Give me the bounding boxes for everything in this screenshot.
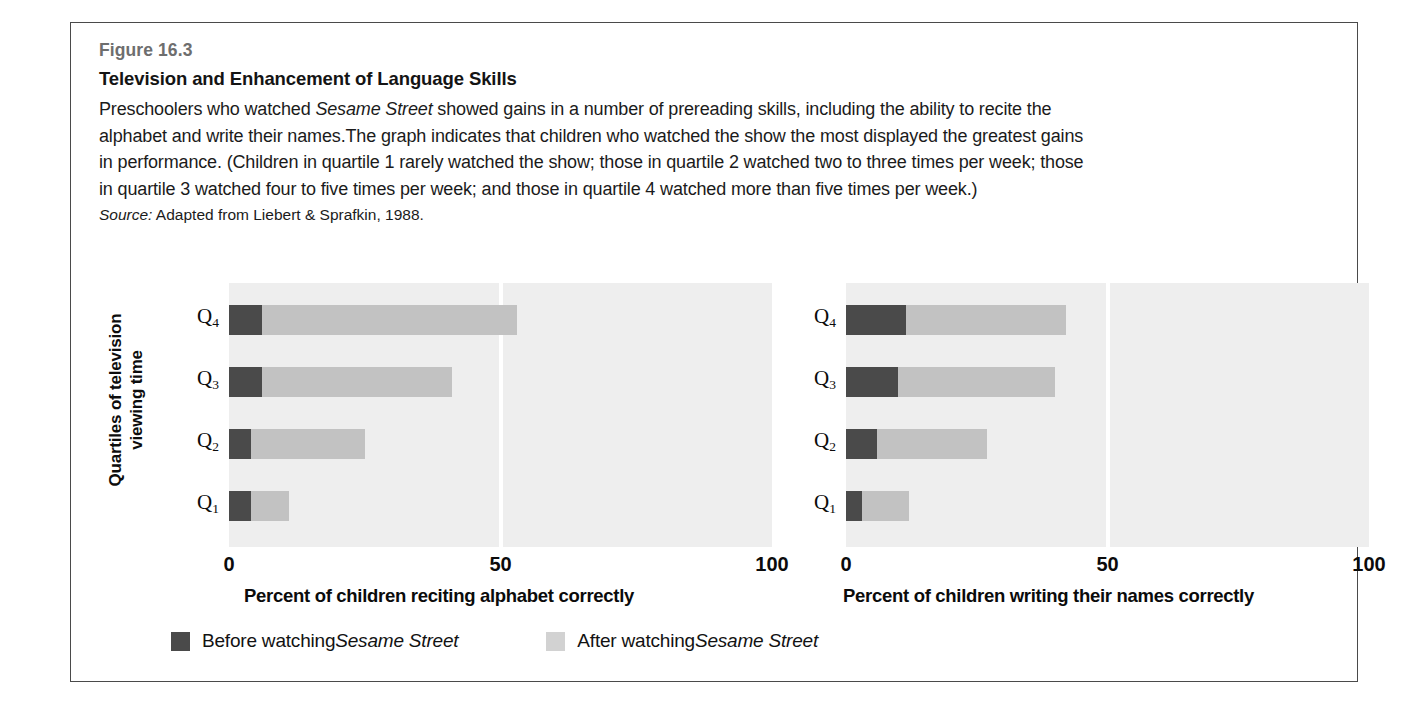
category-label-q4-right: Q4 [814, 304, 836, 329]
table-row[interactable]: Q2 [229, 429, 772, 459]
bar-segment-after[interactable] [262, 367, 452, 397]
table-row[interactable]: Q4 [846, 305, 1369, 335]
figure-title: Television and Enhancement of Language S… [99, 68, 1279, 90]
table-row[interactable]: Q1 [229, 491, 772, 521]
legend-label-after-italic: Sesame Street [695, 630, 818, 652]
x-tick-0-left: 0 [223, 553, 234, 576]
bar-segment-before[interactable] [229, 367, 262, 397]
x-axis-title-left: Percent of children reciting alphabet co… [159, 585, 719, 607]
category-label-q4-left: Q4 [197, 304, 219, 329]
category-label-q2-left: Q2 [197, 428, 219, 453]
bar-segment-after[interactable] [251, 491, 289, 521]
bar-segment-before[interactable] [846, 429, 877, 459]
figure-description-italic-show-title: Sesame Street [315, 99, 432, 119]
bar-segment-after[interactable] [906, 305, 1066, 335]
charts-area: Quartiles of television viewing time Q4 … [71, 271, 1359, 683]
bar-segment-after[interactable] [251, 429, 365, 459]
legend-label-before-plain: Before watching [202, 630, 335, 652]
bar-segment-before[interactable] [229, 429, 251, 459]
x-tick-100-right: 100 [1352, 553, 1385, 576]
bar-segment-after[interactable] [898, 367, 1055, 397]
category-label-q2-right: Q2 [814, 428, 836, 453]
legend-swatch-after-icon [546, 632, 565, 651]
table-row[interactable]: Q2 [846, 429, 1369, 459]
x-tick-50-left: 50 [489, 553, 511, 576]
plot-area-right: Q4 Q3 Q2 Q1 [846, 283, 1369, 547]
legend-swatch-before-icon [171, 632, 190, 651]
x-tick-100-left: 100 [755, 553, 788, 576]
category-label-q1-right: Q1 [814, 490, 836, 515]
chart-legend: Before watching Sesame Street After watc… [171, 630, 818, 652]
bar-segment-after[interactable] [862, 491, 909, 521]
bar-segment-before[interactable] [846, 491, 862, 521]
figure-description-part1: Preschoolers who watched [99, 99, 315, 119]
table-row[interactable]: Q3 [229, 367, 772, 397]
figure-source-label: Source: [99, 206, 152, 223]
bar-segment-before[interactable] [846, 367, 898, 397]
table-row[interactable]: Q4 [229, 305, 772, 335]
bar-segment-after[interactable] [877, 429, 987, 459]
plot-area-left: Q4 Q3 Q2 Q1 [229, 283, 772, 547]
bar-segment-before[interactable] [846, 305, 906, 335]
table-row[interactable]: Q3 [846, 367, 1369, 397]
legend-item-before[interactable]: Before watching Sesame Street [171, 630, 458, 652]
figure-number: Figure 16.3 [99, 40, 1279, 61]
legend-label-after-plain: After watching [577, 630, 695, 652]
x-tick-0-right: 0 [840, 553, 851, 576]
figure-description: Preschoolers who watched Sesame Street s… [99, 96, 1099, 202]
y-axis-title: Quartiles of television viewing time [105, 285, 147, 515]
legend-label-before-italic: Sesame Street [335, 630, 458, 652]
category-label-q3-right: Q3 [814, 366, 836, 391]
bar-segment-before[interactable] [229, 305, 262, 335]
x-tick-50-right: 50 [1096, 553, 1118, 576]
x-axis-title-right: Percent of children writing their names … [776, 585, 1321, 607]
bar-segment-before[interactable] [229, 491, 251, 521]
figure-card: Figure 16.3 Television and Enhancement o… [70, 22, 1358, 682]
table-row[interactable]: Q1 [846, 491, 1369, 521]
legend-item-after[interactable]: After watching Sesame Street [546, 630, 818, 652]
category-label-q3-left: Q3 [197, 366, 219, 391]
category-label-q1-left: Q1 [197, 490, 219, 515]
bar-segment-after[interactable] [262, 305, 517, 335]
figure-source-text: Adapted from Liebert & Sprafkin, 1988. [152, 206, 423, 223]
figure-caption-block: Figure 16.3 Television and Enhancement o… [99, 40, 1279, 226]
figure-source: Source: Adapted from Liebert & Sprafkin,… [99, 204, 1279, 226]
